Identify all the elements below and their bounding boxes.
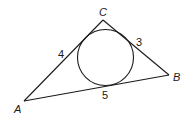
vertex-label-b: B (173, 71, 180, 83)
vertex-label-a: A (13, 103, 21, 115)
segment-label-cb: 3 (136, 36, 142, 48)
incircle (78, 30, 134, 86)
vertex-label-c: C (99, 6, 107, 18)
segment-label-ac: 4 (58, 48, 64, 60)
triangle-incircle-diagram: C A B 4 3 5 (0, 0, 194, 121)
segment-label-ab: 5 (102, 89, 108, 101)
